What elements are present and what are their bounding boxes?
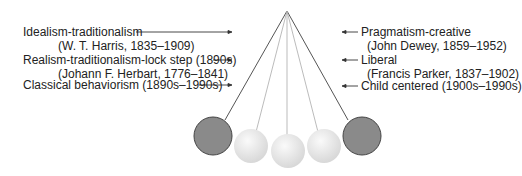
label-pragmatism: Pragmatism-creative bbox=[361, 25, 471, 39]
label-behaviorism: Classical behaviorism (1890s–1990s) bbox=[23, 78, 222, 92]
label-liberal: Liberal bbox=[361, 53, 397, 67]
ball-dark-left bbox=[194, 117, 232, 155]
label-dewey: (John Dewey, 1859–1952) bbox=[367, 39, 507, 53]
ball-dark-right bbox=[343, 117, 381, 155]
label-harris: (W. T. Harris, 1835–1909) bbox=[58, 39, 195, 53]
ball-light-1 bbox=[234, 129, 268, 163]
label-realism: Realism-traditionalism-lock step (1890s) bbox=[23, 53, 236, 67]
pendulum-strings bbox=[225, 11, 348, 136]
ball-light-3 bbox=[307, 129, 341, 163]
right-arrows bbox=[342, 31, 358, 88]
label-child-centered: Child centered (1900s–1990s) bbox=[361, 79, 522, 93]
label-idealism: Idealism-traditionalism bbox=[23, 25, 142, 39]
ball-light-2 bbox=[271, 134, 305, 168]
